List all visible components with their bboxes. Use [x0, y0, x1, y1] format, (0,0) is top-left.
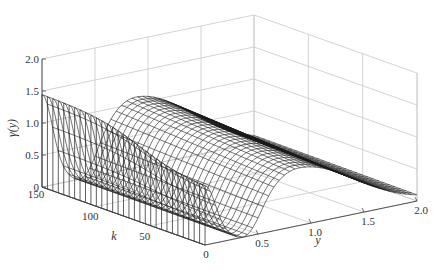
y-tick-label: 2.0 [414, 204, 428, 216]
z-axis-label: γ(y) [5, 119, 19, 137]
z-tick-label: 1.5 [25, 85, 39, 97]
y-tick-label: 1.5 [361, 215, 375, 227]
y-axis-label: y [314, 233, 321, 247]
k-tick-label: 100 [82, 210, 99, 222]
z-tick-label: 1.0 [25, 117, 39, 129]
z-tick-label: 0.5 [25, 149, 39, 161]
k-tick-label: 50 [139, 230, 151, 242]
z-tick-label: 2.0 [25, 53, 39, 65]
k-tick-label: 0 [203, 248, 209, 260]
k-axis-label: k [111, 229, 117, 243]
k-tick-label: 150 [28, 188, 45, 200]
surface-plot: 00.51.01.52.00501001500.51.01.52.0 γ(y) … [0, 0, 439, 270]
y-tick-label: 0.5 [255, 237, 269, 249]
